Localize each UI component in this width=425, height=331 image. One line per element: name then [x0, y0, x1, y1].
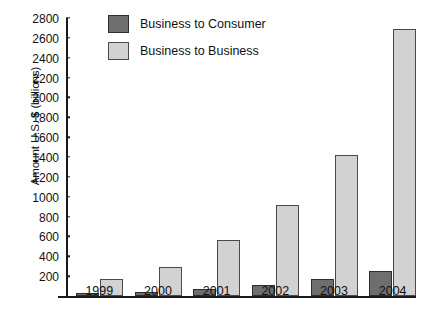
- bar-group: [251, 205, 299, 296]
- bar-group: [369, 29, 417, 296]
- y-axis-tick-mark: [66, 256, 70, 257]
- x-axis-label: 2001: [203, 284, 231, 298]
- y-axis-tick-mark: [66, 156, 70, 157]
- y-axis-tick-label: 1600: [32, 131, 66, 145]
- y-axis-tick-mark: [66, 136, 70, 137]
- y-axis-tick: 600: [39, 227, 66, 245]
- y-axis-tick: 1200: [32, 168, 66, 186]
- y-axis-tick: 2800: [32, 9, 66, 27]
- plot-area: 2004006008001000120014001600180020002200…: [66, 18, 418, 296]
- x-axis-label: 1999: [85, 284, 113, 298]
- x-axis-label: 2000: [144, 284, 172, 298]
- y-axis-tick: 400: [39, 247, 66, 265]
- y-axis-tick-mark: [66, 176, 70, 177]
- y-axis-tick: 2200: [32, 69, 66, 87]
- y-axis-tick-mark: [66, 77, 70, 78]
- y-axis-tick: 2600: [32, 29, 66, 47]
- x-axis-label: 2003: [320, 284, 348, 298]
- y-axis-tick-mark: [66, 37, 70, 38]
- y-axis-tick: 1600: [32, 128, 66, 146]
- y-axis-tick: 2000: [32, 88, 66, 106]
- y-axis-tick-mark: [66, 236, 70, 237]
- x-axis-label: 2004: [379, 284, 407, 298]
- y-axis-tick-label: 2400: [32, 52, 66, 66]
- y-axis-tick-label: 200: [39, 270, 66, 284]
- y-axis-tick-label: 1800: [32, 111, 66, 125]
- y-axis-tick-label: 1200: [32, 171, 66, 185]
- y-axis-tick-mark: [66, 97, 70, 98]
- y-axis-tick-mark: [66, 275, 70, 276]
- y-axis-tick-label: 1000: [32, 191, 66, 205]
- y-axis-tick-label: 600: [39, 230, 66, 244]
- y-axis-tick-label: 2200: [32, 72, 66, 86]
- bar-b2b: [393, 29, 416, 296]
- y-axis-tick-label: 2000: [32, 91, 66, 105]
- y-axis-tick-label: 2800: [32, 12, 66, 26]
- bar-group: [310, 155, 358, 296]
- y-axis-tick-label: 800: [39, 211, 66, 225]
- bar-chart: Amount U.S. $ (billions) Business to Con…: [0, 0, 425, 331]
- y-axis-tick-label: 2600: [32, 32, 66, 46]
- y-axis-tick-mark: [66, 117, 70, 118]
- bar-b2b: [335, 155, 358, 296]
- y-axis-tick: 1400: [32, 148, 66, 166]
- y-axis-tick-mark: [66, 17, 70, 18]
- y-axis-tick-mark: [66, 196, 70, 197]
- y-axis-tick-mark: [66, 216, 70, 217]
- bar-b2b: [276, 205, 299, 296]
- y-axis-tick-label: 1400: [32, 151, 66, 165]
- x-axis-label: 2002: [261, 284, 289, 298]
- y-axis-tick: 1800: [32, 108, 66, 126]
- y-axis-tick: 2400: [32, 49, 66, 67]
- y-axis-tick: 200: [39, 267, 66, 285]
- y-axis-tick-mark: [66, 57, 70, 58]
- y-axis-tick-label: 400: [39, 250, 66, 264]
- y-axis-tick: 1000: [32, 188, 66, 206]
- y-axis-tick: 800: [39, 208, 66, 226]
